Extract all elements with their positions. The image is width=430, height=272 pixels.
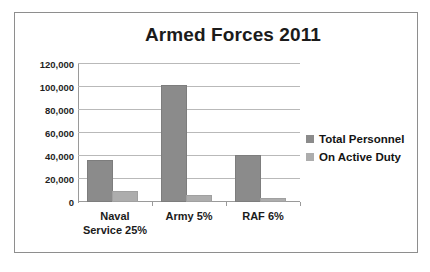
chart-title: Armed Forces 2011 — [15, 24, 417, 46]
bar[interactable] — [260, 198, 286, 202]
y-axis-tick-label: 120,000 — [16, 59, 74, 70]
y-axis-tick-label: 0 — [16, 197, 74, 208]
chart-legend: Total PersonnelOn Active Duty — [306, 131, 418, 167]
bar-group — [161, 64, 210, 202]
bar[interactable] — [235, 155, 261, 202]
x-axis-category-label: RAF 6% — [226, 209, 300, 223]
category-label-line: Service 25% — [78, 223, 152, 237]
y-axis-tick-label: 40,000 — [16, 151, 74, 162]
y-axis-tick-labels: 120,000100,00080,00060,00040,00020,0000 — [15, 64, 74, 202]
category-label-line: RAF 6% — [226, 209, 300, 223]
x-axis-category-label: Army 5% — [152, 209, 226, 223]
bar-group — [87, 64, 136, 202]
x-axis-category-label: NavalService 25% — [78, 209, 152, 237]
x-axis-category-labels: NavalService 25%Army 5%RAF 6% — [78, 209, 300, 251]
legend-swatch-icon — [306, 135, 314, 143]
category-label-line: Naval — [78, 209, 152, 223]
chart-frame: Armed Forces 2011 120,000100,00080,00060… — [14, 12, 418, 253]
legend-item[interactable]: On Active Duty — [306, 149, 418, 164]
bar-group — [235, 64, 284, 202]
y-axis-tick-label: 20,000 — [16, 174, 74, 185]
legend-label: Total Personnel — [319, 133, 404, 145]
bar[interactable] — [112, 191, 138, 202]
bar[interactable] — [186, 195, 212, 202]
x-axis-tick — [226, 202, 227, 206]
x-axis-tick — [300, 202, 301, 206]
y-axis-tick-label: 60,000 — [16, 128, 74, 139]
bar[interactable] — [161, 85, 187, 202]
legend-item[interactable]: Total Personnel — [306, 131, 418, 146]
legend-label: On Active Duty — [319, 151, 401, 163]
legend-swatch-icon — [306, 153, 314, 161]
y-axis-tick-label: 100,000 — [16, 82, 74, 93]
bar[interactable] — [87, 160, 113, 202]
x-axis-tick — [152, 202, 153, 206]
category-label-line: Army 5% — [152, 209, 226, 223]
y-axis-tick-label: 80,000 — [16, 105, 74, 116]
plot-area — [78, 64, 300, 202]
